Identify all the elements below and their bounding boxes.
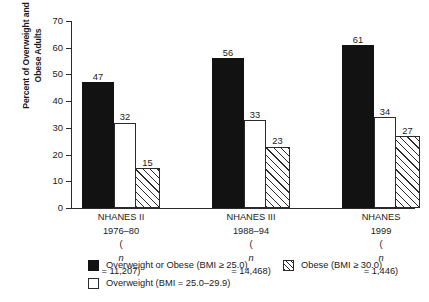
x-axis-line <box>71 208 415 209</box>
bar-g2-s2[interactable]: 33 <box>244 120 266 208</box>
bar-g2-s3[interactable]: 23 <box>265 147 290 208</box>
bar-g3-s3[interactable]: 27 <box>395 136 420 208</box>
legend-swatch-solid-icon <box>88 260 99 271</box>
bar-value-label: 61 <box>353 36 363 45</box>
y-axis-title: Percent of Overweight and Obese Adults <box>21 0 44 151</box>
y-tick-mark <box>66 48 71 49</box>
y-tick-mark <box>66 155 71 156</box>
bar-value-label: 32 <box>120 113 130 122</box>
bar-g2-s1[interactable]: 56 <box>212 58 244 208</box>
plot-area: 706050403020100 473215563323613427 <box>71 21 415 208</box>
bar-g1-s3[interactable]: 15 <box>135 168 160 208</box>
y-tick-mark <box>66 128 71 129</box>
bar-value-label: 23 <box>272 137 282 146</box>
x-axis-labels: NHANES II1976–80(n = 11,207)NHANES III19… <box>71 211 415 257</box>
bar-chart: Percent of Overweight and Obese Adults 7… <box>0 0 429 302</box>
bar-g1-s1[interactable]: 47 <box>82 82 114 208</box>
bar-value-label: 27 <box>402 127 412 136</box>
legend-item-obese: Obese (BMI ≥ 30.0) <box>283 259 382 271</box>
x-label-survey: NHANES III <box>181 211 321 225</box>
legend-item-overweight: Overweight (BMI = 25.0–29.9) <box>88 277 230 289</box>
chart-legend: Overweight or Obese (BMI ≥ 25.0) Overwei… <box>0 259 429 299</box>
bar-value-label: 34 <box>380 108 390 117</box>
legend-swatch-hatch-icon <box>283 260 294 271</box>
x-label-years: 1988–94 <box>181 225 321 239</box>
bar-group-2: 563323 <box>212 21 290 208</box>
y-axis-title-line-2: Obese Adults <box>32 0 44 151</box>
x-label-survey: NHANES <box>311 211 429 225</box>
y-tick-mark <box>66 208 71 209</box>
bar-g3-s1[interactable]: 61 <box>342 45 374 208</box>
y-tick-label: 50 <box>53 70 63 79</box>
y-axis-line <box>71 21 72 208</box>
legend-item-overweight-or-obese: Overweight or Obese (BMI ≥ 25.0) <box>88 259 248 271</box>
legend-label-overweight-or-obese: Overweight or Obese (BMI ≥ 25.0) <box>106 259 248 271</box>
legend-swatch-open-icon <box>88 278 99 289</box>
y-tick-mark <box>66 181 71 182</box>
y-axis-title-line-1: Percent of Overweight and <box>21 0 33 151</box>
y-tick-label: 10 <box>53 177 63 186</box>
bar-value-label: 56 <box>223 49 233 58</box>
bar-value-label: 15 <box>142 159 152 168</box>
bar-g3-s2[interactable]: 34 <box>374 117 396 208</box>
y-tick-label: 30 <box>53 123 63 132</box>
x-label-survey: NHANES II <box>51 211 191 225</box>
bar-g1-s2[interactable]: 32 <box>114 123 136 208</box>
x-label-years: 1999 <box>311 225 429 239</box>
y-tick-label: 70 <box>53 16 63 25</box>
y-tick-mark <box>66 101 71 102</box>
y-tick-label: 60 <box>53 43 63 52</box>
bar-group-3: 613427 <box>342 21 420 208</box>
x-label-years: 1976–80 <box>51 225 191 239</box>
y-tick-label: 20 <box>53 150 63 159</box>
legend-label-obese: Obese (BMI ≥ 30.0) <box>301 259 382 271</box>
y-tick-mark <box>66 21 71 22</box>
y-tick-mark <box>66 74 71 75</box>
y-tick-label: 40 <box>53 96 63 105</box>
bar-group-1: 473215 <box>82 21 160 208</box>
legend-label-overweight: Overweight (BMI = 25.0–29.9) <box>106 277 230 289</box>
bar-value-label: 47 <box>93 73 103 82</box>
bar-value-label: 33 <box>250 111 260 120</box>
